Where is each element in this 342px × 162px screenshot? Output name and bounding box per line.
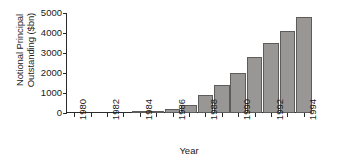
y-tick-label: 1000 [41,88,62,98]
y-axis-tick-labels: 010002000300040005000 [22,13,62,113]
y-tick-mark [63,93,67,94]
x-axis-tick-labels: 19801982198419861988199019921994 [66,114,312,144]
y-tick-mark [63,73,67,74]
x-tick-label: 1994 [319,114,331,144]
x-tick-label: 1980 [89,114,101,144]
x-tick-label: 1992 [286,114,298,144]
bar-chart: Notional Principal Outstanding ($bn) 010… [0,0,342,162]
plot-area [66,13,312,113]
y-tick-label: 3000 [41,48,62,58]
x-axis-title: Year [66,145,312,156]
x-tick-label: 1982 [122,114,134,144]
y-tick-mark [63,53,67,54]
y-tick-label: 0 [57,108,62,118]
y-tick-label: 4000 [41,28,62,38]
x-tick-label: 1990 [253,114,265,144]
x-tick-label: 1986 [188,114,200,144]
y-tick-mark [63,33,67,34]
x-tick-label: 1984 [155,114,167,144]
y-tick-label: 2000 [41,68,62,78]
y-tick-label: 5000 [41,8,62,18]
y-tick-mark [63,13,67,14]
y-axis-line [66,13,67,113]
x-tick-label: 1988 [220,114,232,144]
